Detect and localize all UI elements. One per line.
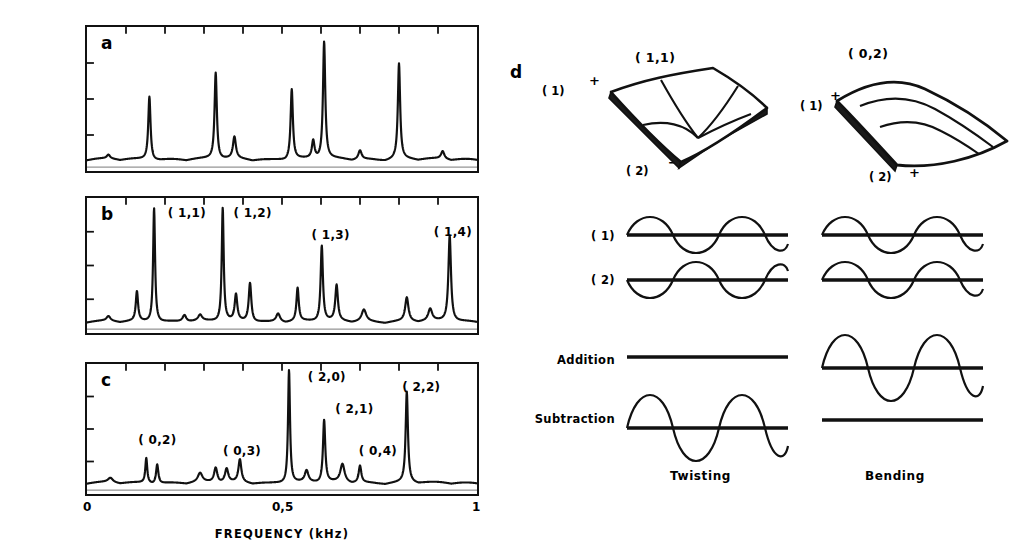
spectrum-trace-b	[87, 198, 477, 333]
wave-twisting-2	[625, 258, 790, 302]
panel-label-b: b	[101, 204, 113, 224]
peak-label-03: ( 0,3)	[223, 444, 261, 458]
x-tick-1: 1	[472, 500, 480, 514]
peak-label-11: ( 1,1)	[168, 206, 206, 220]
wave-twisting-subtraction	[625, 390, 790, 466]
spectrum-trace-a	[87, 27, 477, 171]
peak-label-02: ( 0,2)	[138, 433, 176, 447]
panel-label-c: c	[101, 370, 111, 390]
spectrum-panel-b: b ( 1,1)( 1,2)( 1,3)( 1,4)	[85, 196, 479, 335]
peak-label-22: ( 2,2)	[402, 380, 440, 394]
wave-bending-1	[820, 213, 985, 257]
wave-bending-subtraction	[820, 403, 985, 437]
plate-shape-twisting	[595, 58, 775, 173]
row-label-1: ( 1)	[510, 229, 615, 243]
x-axis-label: FREQUENCY (kHz)	[85, 527, 479, 541]
peak-label-14: ( 1,4)	[434, 225, 472, 239]
x-tick-0-5: 0,5	[272, 500, 293, 514]
column-caption-bending: Bending	[865, 469, 925, 483]
x-tick-0: 0	[83, 500, 91, 514]
peak-label-13: ( 1,3)	[312, 228, 350, 242]
wave-twisting-1	[625, 213, 790, 257]
edge-tag-twisting-1: ( 1)	[542, 84, 565, 98]
panel-label-d: d	[510, 62, 522, 82]
peak-label-12: ( 1,2)	[234, 206, 272, 220]
wave-bending-addition	[820, 330, 985, 406]
row-label-2: ( 2)	[510, 273, 615, 287]
row-label-subtraction: Subtraction	[500, 412, 615, 426]
edge-tag-bending-1: ( 1)	[800, 99, 823, 113]
row-label-addition: Addition	[500, 353, 615, 367]
spectrum-panel-a: a	[85, 25, 479, 173]
mode-label-bending: ( 0,2)	[848, 46, 888, 61]
plate-shape-bending	[825, 75, 1014, 185]
mode-diagram-block: d ( 1,1) ( 1) + ( 2) − ( 0,2) ( 1) + ( 2…	[500, 0, 1014, 559]
spectrum-panel-c: c ( 0,2)( 0,3)( 2,0)( 2,1)( 0,4)( 2,2)	[85, 362, 479, 496]
peak-label-20: ( 2,0)	[308, 370, 346, 384]
panel-label-a: a	[101, 33, 112, 53]
wave-twisting-addition	[625, 340, 790, 374]
spectra-block: SPECTRUM INTENSITY (arbitrary units) a b…	[0, 0, 500, 559]
peak-label-04: ( 0,4)	[359, 444, 397, 458]
column-caption-twisting: Twisting	[670, 469, 731, 483]
wave-bending-2	[820, 258, 985, 302]
figure-root: SPECTRUM INTENSITY (arbitrary units) a b…	[0, 0, 1014, 559]
peak-label-21: ( 2,1)	[335, 402, 373, 416]
